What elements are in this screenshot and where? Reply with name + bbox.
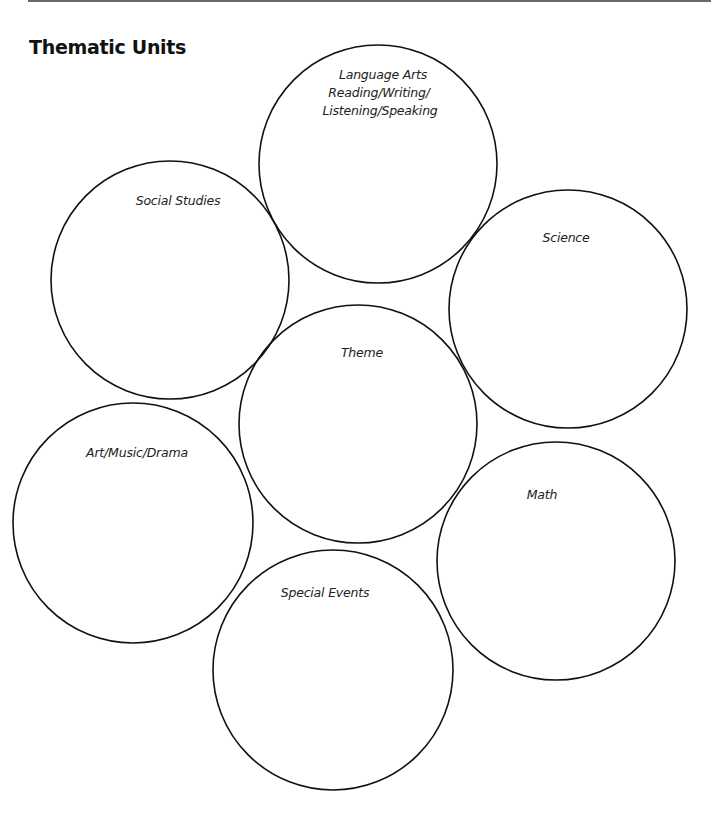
circle-shape <box>13 403 253 643</box>
circle-language-arts[interactable]: Language Arts Reading/Writing/ Listening… <box>259 45 497 283</box>
circle-label: Listening/Speaking <box>322 103 437 118</box>
circle-shape <box>437 442 675 680</box>
circle-math[interactable]: Math <box>437 442 675 680</box>
circle-art-music-drama[interactable]: Art/Music/Drama <box>13 403 253 643</box>
circle-special-events[interactable]: Special Events <box>213 550 453 790</box>
circle-label: Science <box>542 230 590 245</box>
circle-label: Art/Music/Drama <box>85 445 188 460</box>
circle-label: Language Arts <box>339 67 428 82</box>
circle-label: Theme <box>341 345 384 360</box>
circle-shape <box>449 190 687 428</box>
thematic-web-diagram: Language Arts Reading/Writing/ Listening… <box>0 0 711 827</box>
circle-science[interactable]: Science <box>449 190 687 428</box>
circle-social-studies[interactable]: Social Studies <box>51 161 289 399</box>
circle-shape <box>239 305 477 543</box>
circle-label: Math <box>527 487 558 502</box>
circle-label: Reading/Writing/ <box>328 85 431 100</box>
circle-theme[interactable]: Theme <box>239 305 477 543</box>
circle-label: Social Studies <box>136 193 221 208</box>
circle-label: Special Events <box>281 585 370 600</box>
